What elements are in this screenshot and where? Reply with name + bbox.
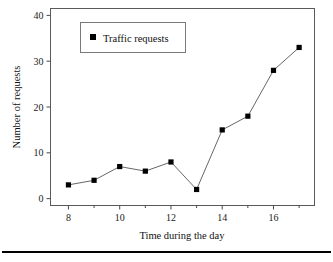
x-tick-label: 14 (217, 212, 227, 223)
legend-entry-label: Traffic requests (103, 33, 169, 44)
x-axis-ticks: 810121416 (66, 206, 279, 223)
bottom-divider-rule (2, 251, 331, 253)
data-point-marker (194, 187, 199, 192)
data-point-marker (245, 114, 250, 119)
x-tick-label: 8 (66, 212, 71, 223)
series-markers-traffic-requests (66, 45, 302, 192)
data-point-marker (66, 182, 71, 187)
data-point-marker (271, 68, 276, 73)
x-tick-label: 10 (115, 212, 125, 223)
data-point-marker (297, 45, 302, 50)
traffic-requests-line-chart: 010203040 810121416 Number of requests T… (0, 0, 333, 262)
x-tick-label: 12 (166, 212, 176, 223)
figure-container: 010203040 810121416 Number of requests T… (0, 0, 333, 262)
data-point-marker (91, 178, 96, 183)
y-tick-label: 0 (39, 193, 44, 204)
y-tick-label: 10 (34, 147, 44, 158)
y-tick-label: 30 (34, 56, 44, 67)
data-point-marker (143, 169, 148, 174)
y-tick-label: 40 (34, 10, 44, 21)
series-line-traffic-requests (68, 47, 299, 189)
y-axis-title: Number of requests (11, 66, 22, 149)
legend-marker-icon (90, 34, 96, 40)
data-point-marker (117, 164, 122, 169)
legend: Traffic requests (81, 23, 186, 53)
y-axis-ticks: 010203040 (34, 10, 51, 204)
y-tick-label: 20 (34, 102, 44, 113)
x-tick-label: 16 (268, 212, 278, 223)
x-axis-title: Time during the day (139, 230, 225, 241)
data-point-marker (220, 127, 225, 132)
data-point-marker (168, 159, 173, 164)
